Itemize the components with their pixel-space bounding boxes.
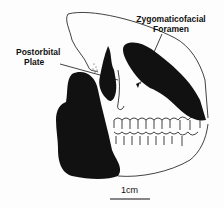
lower-teeth [114,132,198,146]
upper-teeth [114,117,200,130]
postorbital-label: Postorbital Plate [16,47,60,67]
foramen-mark [136,82,140,88]
postorbital-label-line1: Postorbital [16,47,60,57]
zygomaticofacial-label-line2: Foramen [131,24,211,34]
zygomaticofacial-label: Zygomaticofacial Foramen [131,14,211,34]
scale-bar-label: 1cm [121,185,138,195]
skull-figure: Zygomaticofacial Foramen Postorbital Pla… [0,0,224,208]
mandible-outline [118,124,208,176]
zygomaticofacial-label-line1: Zygomaticofacial [131,14,211,24]
postorbital-label-line2: Plate [16,57,60,67]
postorbital-dark-region [99,46,116,101]
orbit-rim [118,70,124,110]
frontal-edge [67,14,98,72]
